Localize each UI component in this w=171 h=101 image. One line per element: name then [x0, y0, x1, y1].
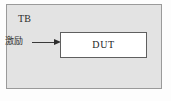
stimulus-label: 激励	[5, 35, 35, 47]
stimulus-arrow-icon	[32, 38, 62, 47]
dut-block: DUT	[60, 32, 147, 58]
arrow-shaft	[32, 42, 55, 43]
testbench-label: TB	[18, 13, 31, 25]
diagram-canvas: TB 激励 DUT	[0, 0, 171, 101]
dut-label: DUT	[92, 39, 114, 51]
